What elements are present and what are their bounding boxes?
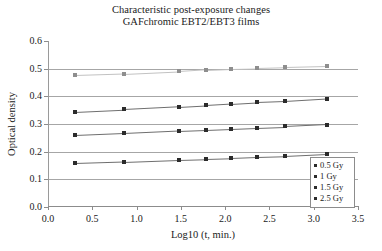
series-line-segment (179, 70, 206, 73)
data-point-marker (283, 99, 287, 103)
data-point-marker (283, 65, 287, 69)
data-point-marker (325, 64, 329, 68)
series-line-segment (179, 130, 206, 132)
series-line-segment (206, 129, 232, 131)
legend-item: 1.5 Gy (314, 182, 351, 193)
legend-item-label: 2.5 Gy (320, 193, 343, 204)
series-line-segment (75, 109, 124, 112)
y-tick-label: 0.5 (30, 64, 43, 74)
data-point-marker (283, 124, 287, 128)
series-line-segment (75, 74, 124, 76)
x-tick-label: 0.0 (42, 213, 55, 224)
x-tick-label: 3.5 (352, 213, 365, 224)
data-point-marker (229, 67, 233, 71)
series-line-segment (257, 101, 285, 103)
data-point-marker (204, 157, 208, 161)
series-line-segment (231, 68, 257, 70)
data-point-marker (325, 97, 329, 101)
legend-item: 1 Gy (314, 171, 351, 182)
y-tick-label: 0.4 (30, 91, 43, 101)
chart-title-line-1: Characteristic post-exposure changes (0, 4, 382, 16)
data-point-marker (177, 69, 181, 73)
legend-item: 0.5 Gy (314, 160, 351, 171)
series-line-segment (257, 67, 285, 69)
y-tick-label: 0.0 (30, 202, 43, 212)
series-line-segment (206, 69, 232, 71)
data-point-marker (122, 107, 126, 111)
y-axis-title: Optical density (6, 41, 20, 207)
legend-marker-icon (314, 164, 317, 167)
chart-legend: 0.5 Gy1 Gy1.5 Gy2.5 Gy (310, 157, 355, 208)
data-point-marker (204, 128, 208, 132)
series-line-segment (285, 99, 327, 102)
x-tick-label: 1.0 (130, 213, 143, 224)
y-tick-label: 0.3 (30, 119, 43, 129)
x-axis-title: Log10 (t, min.) (48, 229, 358, 240)
series-line-segment (231, 128, 257, 130)
legend-marker-icon (314, 197, 317, 200)
data-point-marker (229, 156, 233, 160)
y-tick-label: 0.6 (30, 36, 43, 46)
series-line-segment (231, 102, 257, 104)
x-tick-label: 0.5 (86, 213, 99, 224)
data-point-marker (177, 129, 181, 133)
data-point-marker (73, 133, 77, 137)
data-point-marker (255, 66, 259, 70)
data-point-marker (73, 73, 77, 77)
data-point-marker (122, 131, 126, 135)
data-point-marker (73, 110, 77, 114)
series-line-segment (206, 104, 232, 106)
series-line-segment (257, 156, 285, 158)
data-point-marker (325, 123, 329, 127)
series-line-segment (257, 126, 285, 128)
series-line-segment (124, 160, 179, 163)
data-point-marker (122, 72, 126, 76)
series-line-segment (124, 71, 179, 74)
series-line-segment (75, 162, 124, 164)
legend-item-label: 0.5 Gy (320, 160, 343, 171)
data-point-marker (177, 105, 181, 109)
chart-title-line-2: GAFchromic EBT2/EBT3 films (0, 16, 382, 28)
data-point-marker (177, 158, 181, 162)
x-tick-label: 3.0 (307, 213, 320, 224)
data-point-marker (204, 103, 208, 107)
x-tick-label: 2.0 (219, 213, 232, 224)
data-point-marker (73, 161, 77, 165)
series-line-segment (285, 66, 327, 68)
series-line-segment (124, 107, 179, 111)
x-tick (358, 206, 359, 210)
data-point-marker (122, 160, 126, 164)
data-point-marker (255, 100, 259, 104)
series-line-segment (231, 157, 257, 159)
data-point-marker (325, 152, 329, 156)
series-line-segment (75, 133, 124, 136)
chart-title: Characteristic post-exposure changes GAF… (0, 4, 382, 28)
x-tick-label: 2.5 (263, 213, 276, 224)
series-line-segment (206, 158, 232, 160)
data-point-marker (204, 68, 208, 72)
plot-area: 0.00.10.20.30.40.50.6 0.00.51.01.52.02.5… (48, 41, 358, 207)
legend-marker-icon (314, 175, 317, 178)
y-tick-label: 0.1 (30, 174, 43, 184)
series-line-segment (179, 159, 206, 161)
legend-item-label: 1.5 Gy (320, 182, 343, 193)
legend-marker-icon (314, 186, 317, 189)
series-line-segment (124, 131, 179, 134)
legend-item: 2.5 Gy (314, 193, 351, 204)
data-point-marker (229, 102, 233, 106)
y-tick-label: 0.2 (30, 147, 43, 157)
x-tick-label: 1.5 (175, 213, 188, 224)
series-line-segment (285, 125, 327, 128)
legend-item-label: 1 Gy (320, 171, 337, 182)
data-point-marker (283, 154, 287, 158)
data-point-marker (229, 127, 233, 131)
data-point-marker (255, 126, 259, 130)
data-point-marker (255, 155, 259, 159)
series-line-segment (179, 105, 206, 107)
chart-figure: Characteristic post-exposure changes GAF… (0, 0, 382, 251)
